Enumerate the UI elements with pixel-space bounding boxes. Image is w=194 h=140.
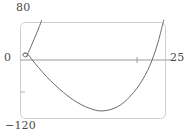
curve-group: [23, 20, 164, 111]
curve-steep-branch: [26, 21, 41, 57]
x-axis-max-label: 25: [170, 51, 184, 64]
y-axis-min-label: −120: [5, 119, 36, 132]
plot-frame: [21, 23, 166, 119]
chart-figure: 80 0 −120 25: [0, 0, 194, 140]
y-axis-max-label: 80: [16, 1, 30, 14]
curve-main-branch: [23, 20, 164, 111]
y-axis-zero-label: 0: [4, 51, 11, 64]
